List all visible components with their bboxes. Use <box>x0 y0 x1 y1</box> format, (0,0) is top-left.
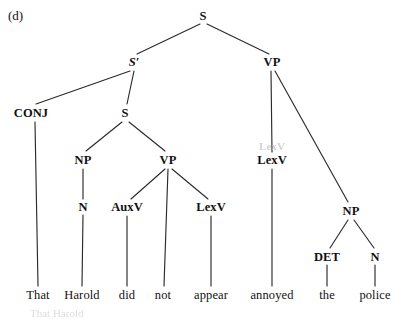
tree-edge-VP_emb-to-not <box>164 169 168 286</box>
tree-node-lexv-mn: LexV <box>257 154 287 167</box>
tree-node-n-subj: N <box>78 201 87 214</box>
tree-edge-S_root-to-Sbar <box>137 24 200 54</box>
terminal-word-w-harold: Harold <box>64 289 99 302</box>
terminal-word-w-annoyed: annoyed <box>250 289 293 302</box>
tree-node-np-subj: NP <box>75 154 92 167</box>
tree-edge-S_root-to-VP_top <box>207 24 269 54</box>
tree-node-np-obj: NP <box>343 205 360 218</box>
terminal-word-w-appear: appear <box>194 289 228 302</box>
tree-edge-VP_emb-to-LexV_emb <box>172 169 208 199</box>
terminal-word-w-not: not <box>155 289 171 302</box>
tree-edge-S_emb-to-VP_emb <box>129 122 165 151</box>
tree-edge-S_emb-to-NP_subj <box>86 122 122 151</box>
tree-edge-Sbar-to-CONJ <box>36 71 130 104</box>
tree-edge-NP_obj-to-DET <box>330 220 348 248</box>
tree-node-n-obj: N <box>370 251 379 264</box>
tree-edge-VP_top-to-NP_obj <box>275 71 348 202</box>
tree-node-s-emb: S <box>121 107 128 120</box>
terminal-word-w-did: did <box>119 289 135 302</box>
terminal-word-w-that: That <box>26 289 49 302</box>
tree-edge-N_subj-to-w_harold <box>82 215 83 286</box>
terminal-word-w-police: police <box>359 289 390 302</box>
tree-edge-VP_emb-to-AuxV <box>131 169 165 199</box>
tree-node-lexv-emb: LexV <box>196 201 226 214</box>
tree-node-vp-emb: VP <box>160 154 177 167</box>
tree-node-vp-top: VP <box>264 56 281 69</box>
terminal-word-w-the: the <box>319 289 335 302</box>
scan-artifact-bottom-cut-text: That Harold <box>30 307 83 319</box>
tree-edge-Sbar-to-S_emb <box>127 71 134 104</box>
tree-node-auxv: AuxV <box>111 201 143 214</box>
tree-node-s-root: S <box>199 10 206 23</box>
tree-edge-CONJ-to-w_that <box>35 122 38 286</box>
tree-node-conj: CONJ <box>14 107 48 120</box>
tree-node-det: DET <box>314 251 340 264</box>
tree-node-sbar: S′ <box>129 56 140 69</box>
scan-ghost-lexv-ghost: LexV <box>259 141 285 152</box>
tree-edge-NP_obj-to-N_obj <box>354 220 374 248</box>
